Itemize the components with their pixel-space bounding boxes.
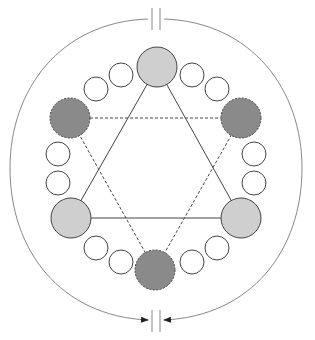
- small-circles: [46, 63, 266, 274]
- large-dashed-circles: [50, 98, 261, 290]
- hexagram-circle-diagram: [0, 0, 315, 340]
- large-solid-circles: [51, 47, 261, 238]
